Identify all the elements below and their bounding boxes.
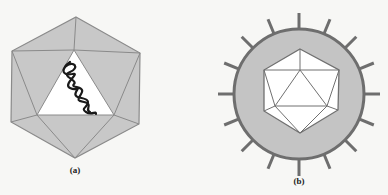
figure-canvas — [0, 0, 388, 195]
figure-label-b: (b) — [294, 176, 305, 186]
figure-label-a: (a) — [70, 165, 81, 175]
enveloped-virus-b — [218, 13, 380, 176]
icosahedron-capsid-a — [11, 17, 140, 158]
